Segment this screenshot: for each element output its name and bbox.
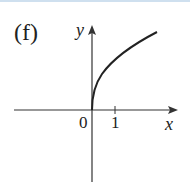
x-axis-label: x (165, 114, 173, 135)
x-tick-label-1: 1 (111, 113, 120, 133)
figure: (f) y x 0 1 (0, 0, 190, 182)
x-tick-label-0: 0 (79, 113, 88, 133)
panel-label: (f) (14, 19, 38, 46)
y-axis-label: y (76, 20, 84, 41)
sqrt-curve (92, 32, 157, 110)
